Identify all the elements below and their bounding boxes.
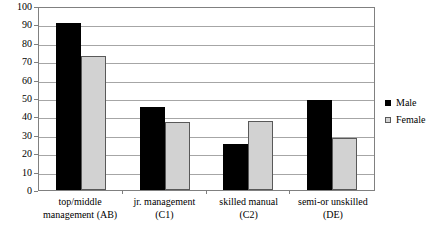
x-category-label-line1: top/middle (38, 196, 122, 209)
bar-female[interactable] (81, 56, 106, 190)
x-category-label: skilled manual(C2) (207, 194, 291, 238)
bar-group (290, 8, 374, 190)
bars-layer (39, 8, 374, 190)
plot-area (38, 7, 375, 191)
legend-item-male[interactable]: Male (385, 98, 440, 108)
x-category-label-line2: (DE) (291, 209, 375, 222)
bar-group (207, 8, 291, 190)
y-tick-label: 80 (0, 39, 32, 49)
bar-group (123, 8, 207, 190)
bar-chart: 1009080706050403020100 top/middlemanagem… (0, 0, 440, 241)
x-category-label-line1: jr. management (122, 196, 206, 209)
bar-female[interactable] (165, 122, 190, 190)
y-tick-label: 50 (0, 94, 32, 104)
y-tick-label: 10 (0, 168, 32, 178)
y-axis: 1009080706050403020100 (0, 0, 32, 191)
bar-female[interactable] (332, 138, 357, 190)
y-tick-label: 40 (0, 112, 32, 122)
bar-group (39, 8, 123, 190)
y-tick-label: 0 (0, 186, 32, 196)
x-category-label-line2: (C2) (207, 209, 291, 222)
y-tick-label: 20 (0, 149, 32, 159)
y-tick-mark (34, 191, 38, 192)
legend-label: Male (396, 98, 417, 108)
x-category-label: top/middlemanagement (AB) (38, 194, 122, 238)
female-swatch (385, 117, 391, 123)
y-tick-label: 90 (0, 20, 32, 30)
x-category-label-line1: skilled manual (207, 196, 291, 209)
bar-male[interactable] (307, 100, 332, 190)
x-axis: top/middlemanagement (AB)jr. management(… (38, 194, 375, 238)
x-category-label-line2: management (AB) (38, 209, 122, 222)
y-tick-label: 70 (0, 57, 32, 67)
y-tick-label: 30 (0, 131, 32, 141)
y-tick-label: 100 (0, 2, 32, 12)
x-category-label: semi-or unskilled(DE) (291, 194, 375, 238)
legend-label: Female (396, 115, 425, 125)
x-category-label-line2: (C1) (122, 209, 206, 222)
bar-male[interactable] (140, 107, 165, 190)
x-category-label-line1: semi-or unskilled (291, 196, 375, 209)
legend: MaleFemale (385, 98, 440, 132)
male-swatch (385, 100, 391, 106)
x-category-label: jr. management(C1) (122, 194, 206, 238)
y-tick-label: 60 (0, 76, 32, 86)
legend-item-female[interactable]: Female (385, 115, 440, 125)
bar-male[interactable] (56, 23, 81, 190)
bar-female[interactable] (248, 121, 273, 190)
bar-male[interactable] (223, 144, 248, 190)
